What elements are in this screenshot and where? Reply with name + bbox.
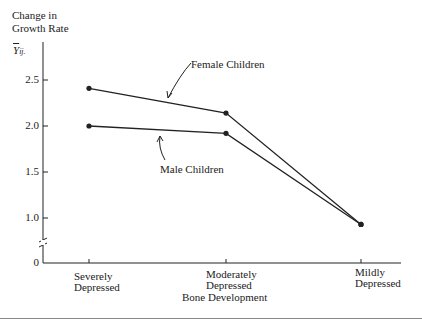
y-tick-label: 0 <box>34 256 40 269</box>
data-point <box>223 111 228 116</box>
legend-female-children: Female Children <box>191 58 265 71</box>
data-point <box>86 123 91 128</box>
legend-male-children: Male Children <box>160 163 224 176</box>
series-line-female-children <box>89 88 361 224</box>
female-annotation-arrow <box>168 63 191 98</box>
data-point <box>86 86 91 91</box>
y-tick-label: 2.0 <box>25 119 39 132</box>
data-point <box>223 131 228 136</box>
x-tick-label: Depressed <box>355 277 401 290</box>
x-axis-title: Bone Development <box>182 291 267 304</box>
y-tick-label: 2.5 <box>25 73 39 86</box>
data-point <box>358 222 363 227</box>
x-tick-label: Depressed <box>74 281 120 294</box>
bottom-divider <box>0 318 422 319</box>
series-line-male-children <box>89 126 361 224</box>
y-tick-label: 1.0 <box>25 211 39 224</box>
y-tick-label: 1.5 <box>25 165 39 178</box>
